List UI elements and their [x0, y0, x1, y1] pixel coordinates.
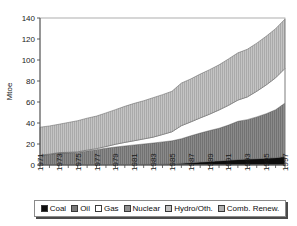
y-tick-label: 100: [22, 56, 36, 65]
legend-swatch-icon: [124, 205, 131, 212]
legend-item-label: Coal: [50, 204, 66, 213]
legend-swatch-icon: [165, 205, 172, 212]
y-tick-label: 140: [22, 14, 36, 23]
x-tick-label: 1979: [111, 153, 120, 171]
legend-item-label: Comb. Renew.: [227, 204, 279, 213]
x-tick-label: 1973: [55, 153, 64, 171]
legend-item-coal[interactable]: Coal: [41, 204, 66, 213]
legend-item-nuclear[interactable]: Nuclear: [124, 204, 161, 213]
x-tick-label: 1987: [187, 153, 196, 171]
y-tick-label: 60: [26, 98, 35, 107]
x-tick-label: 1971: [36, 153, 45, 171]
y-tick-label: 120: [22, 35, 36, 44]
legend-item-oil[interactable]: Oil: [71, 204, 90, 213]
legend-item-label: Nuclear: [133, 204, 161, 213]
legend-item-label: Hydro/Oth.: [174, 204, 213, 213]
x-tick-label: 1975: [74, 153, 83, 171]
y-tick-label: 40: [26, 119, 35, 128]
x-tick-label: 1993: [243, 153, 252, 171]
x-tick-label: 1989: [206, 153, 215, 171]
legend-item-hydro-oth[interactable]: Hydro/Oth.: [165, 204, 213, 213]
x-tick-label: 1985: [168, 153, 177, 171]
x-tick-label: 1997: [281, 153, 290, 171]
x-tick-label: 1991: [224, 153, 233, 171]
x-tick-label: 1977: [93, 153, 102, 171]
legend-swatch-icon: [71, 205, 78, 212]
stacked-area-chart: 020406080100120140Mtoe197119731975197719…: [0, 0, 297, 226]
chart-legend: CoalOilGasNuclearHydro/Oth.Comb. Renew.: [34, 200, 286, 217]
x-tick-label: 1995: [262, 153, 271, 171]
x-tick-label: 1983: [149, 153, 158, 171]
y-tick-label: 80: [26, 77, 35, 86]
y-tick-label: 0: [31, 161, 36, 170]
legend-item-gas[interactable]: Gas: [95, 204, 119, 213]
x-tick-label: 1981: [130, 153, 139, 171]
legend-swatch-icon: [218, 205, 225, 212]
chart-figure: 020406080100120140Mtoe197119731975197719…: [0, 0, 297, 226]
legend-swatch-icon: [95, 205, 102, 212]
legend-item-comb-renew[interactable]: Comb. Renew.: [218, 204, 279, 213]
y-axis-title: Mtoe: [5, 82, 14, 100]
legend-item-label: Gas: [104, 204, 119, 213]
y-tick-label: 20: [26, 140, 35, 149]
legend-item-label: Oil: [80, 204, 90, 213]
legend-swatch-icon: [41, 205, 48, 212]
